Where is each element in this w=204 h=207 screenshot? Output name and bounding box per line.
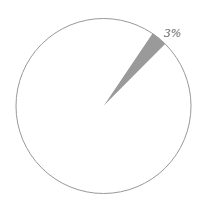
pie-slice-other (16, 18, 191, 193)
pie-labels: 3% (164, 27, 181, 40)
slice-label: 3% (164, 27, 181, 40)
pie-slices (16, 18, 191, 193)
pie-chart: 3% (0, 0, 204, 207)
